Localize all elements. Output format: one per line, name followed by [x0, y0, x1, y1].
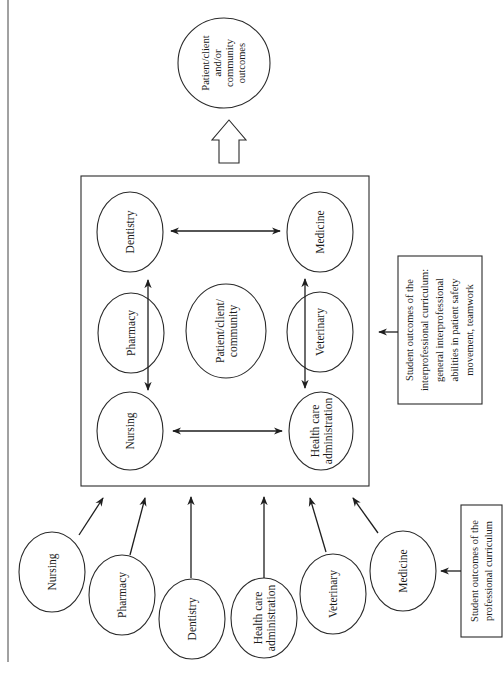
- interprofessional-outcomes-label: Student outcomes of the interprofessiona…: [398, 256, 482, 404]
- svg-text:professional curriculum: professional curriculum: [483, 521, 494, 621]
- inner-node-dentistry: Dentistry: [97, 192, 163, 272]
- inner-node-nursing: Nursing: [97, 392, 163, 470]
- svg-text:community: community: [227, 305, 240, 358]
- svg-text:Student outcomes of the: Student outcomes of the: [404, 279, 415, 381]
- inner-node-veterinary: Veterinary: [287, 292, 353, 372]
- svg-text:Student outcomes of the: Student outcomes of the: [469, 520, 480, 622]
- prof-node-veterinary: Veterinary: [300, 554, 366, 634]
- svg-text:Nursing: Nursing: [46, 553, 59, 590]
- prof-node-nursing: Nursing: [19, 532, 85, 612]
- prof-node-health-care-administration: Health care administration: [231, 578, 297, 658]
- svg-text:administration: administration: [322, 398, 334, 465]
- professional-outcomes-label: Student outcomes of the professional cur…: [461, 505, 502, 637]
- prof-node-pharmacy: Pharmacy: [89, 555, 155, 635]
- svg-text:Veterinary: Veterinary: [327, 570, 340, 618]
- center-node-patient: Patient/client/ community: [186, 284, 266, 378]
- outcome-line-2: and/or: [212, 49, 223, 76]
- svg-text:Health care: Health care: [309, 405, 321, 458]
- interprofessional-education-diagram: Patient/client and/or community outcomes…: [0, 0, 504, 680]
- svg-text:Pharmacy: Pharmacy: [116, 572, 129, 618]
- arrow-prof-nursing: [79, 498, 103, 535]
- outcome-line-3: community: [224, 38, 235, 87]
- svg-text:Medicine: Medicine: [397, 549, 409, 592]
- inner-node-health-care-administration: Health care administration: [289, 392, 353, 470]
- svg-text:Dentistry: Dentistry: [124, 210, 137, 253]
- svg-text:Veterinary: Veterinary: [314, 308, 327, 356]
- svg-text:interprofessional curriculum:: interprofessional curriculum:: [419, 269, 430, 391]
- outcome-line-4: outcomes: [236, 43, 247, 83]
- svg-text:Dentistry: Dentistry: [186, 597, 199, 640]
- arrow-prof-veterinary: [310, 498, 326, 552]
- svg-text:Health care: Health care: [252, 592, 264, 645]
- svg-text:Nursing: Nursing: [124, 412, 137, 449]
- arrow-prof-medicine: [353, 498, 378, 533]
- inner-node-medicine: Medicine: [287, 192, 353, 272]
- outcome-line-1: Patient/client: [200, 35, 211, 90]
- svg-text:abilities in patient safety: abilities in patient safety: [449, 278, 460, 382]
- hollow-up-arrow-icon: [212, 120, 246, 163]
- inner-node-pharmacy: Pharmacy: [98, 293, 164, 373]
- svg-text:Patient/client/: Patient/client/: [214, 298, 226, 363]
- prof-node-medicine: Medicine: [370, 531, 436, 611]
- svg-text:Medicine: Medicine: [314, 210, 326, 253]
- outcome-node: Patient/client and/or community outcomes: [178, 18, 270, 108]
- arrow-prof-pharmacy: [130, 498, 145, 555]
- svg-text:movement, teamwork: movement, teamwork: [464, 283, 475, 375]
- svg-text:administration: administration: [265, 585, 277, 652]
- prof-node-dentistry: Dentistry: [159, 579, 225, 659]
- svg-text:Pharmacy: Pharmacy: [125, 310, 138, 356]
- svg-text:general interprofessional: general interprofessional: [434, 278, 445, 382]
